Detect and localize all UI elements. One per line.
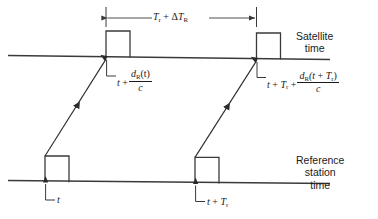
eq1-operator: + [122,77,128,88]
reference-pulse-2-annotation: t + Tr [207,196,228,209]
reference-timeline-axis [8,181,330,184]
leader-reference-pulse-2 [196,186,205,202]
eq2-term-subscript: r [286,83,288,90]
leader-satellite-pulse-1 [107,60,116,76]
eq2-numerator-arg-op: + [318,70,324,81]
reference-timeline-label: Reference station time [296,154,344,191]
satellite-pulse-2-annotation: t + Tr + dR(t + Tr) c [267,70,340,96]
signal-ray-1 [45,59,106,156]
timing-diagram-figure: | ===== --> [0,0,378,219]
ref2-lead: t [207,196,210,207]
satellite-timeline-label-line-1: Satellite [296,30,333,42]
eq2-operator-1: + [272,78,278,89]
reference-pulse-1 [45,156,69,182]
satellite-pulse-2 [257,33,281,59]
reference-timeline-label-line-1: Reference [296,154,344,166]
reference-pulse-1-annotation: t [57,194,60,206]
leader-reference-pulse-1 [46,184,55,200]
ref1-lead: t [57,194,60,205]
eq2-numerator: dR(t + Tr) [297,70,338,84]
ref2-operator: + [212,196,218,207]
dimension-second-subscript: R [183,16,188,23]
eq1-numerator: dR(t) [129,68,152,82]
reference-pulse-2-tick [193,178,198,185]
eq1-lead: t [117,77,120,88]
eq1-denominator: c [129,82,152,94]
dimension-first-subscript: r [159,16,161,23]
dimension-label: Tr + ΔTR [153,11,188,24]
satellite-timeline-axis [8,56,330,60]
reference-timeline-label-line-2: station [305,166,336,178]
eq2-numerator-arg-lead: (t [309,70,315,81]
eq2-numerator-arg-close: ) [334,70,337,81]
eq2-denominator: c [297,83,338,95]
reference-pulse-2 [195,157,219,183]
signal-ray-2 [195,60,257,157]
eq1-fraction: dR(t) c [129,68,152,94]
satellite-timeline-label: Satellite time [296,30,333,55]
eq2-lead: t [267,78,270,89]
leader-satellite-pulse-2 [257,62,266,78]
reference-pulse-1-tick [43,176,48,183]
satellite-timeline-label-line-2: time [305,42,325,54]
satellite-pulse-1 [106,31,130,58]
satellite-pulse-1-annotation: t + dR(t) c [117,68,153,94]
eq1-numerator-arg: (t) [140,68,149,79]
dimension-operator: + [163,11,169,22]
eq2-fraction: dR(t + Tr) c [297,70,338,96]
ref2-term-subscript: r [226,200,228,207]
reference-timeline-label-line-3: time [310,179,330,191]
eq2-operator-2: + [291,78,297,89]
